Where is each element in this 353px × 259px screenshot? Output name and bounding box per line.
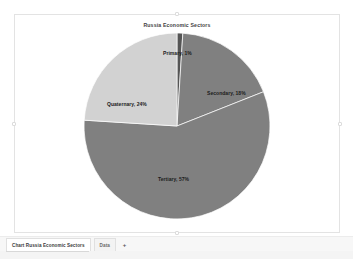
pie-data-label-quaternary[interactable]: Quaternary, 24%: [107, 101, 147, 107]
sheet-tab-chart[interactable]: Chart Russia Economic Sectors: [6, 238, 91, 251]
pie-chart-plot-area[interactable]: Primary, 1% Secondary, 18% Tertiary, 57%…: [15, 31, 339, 231]
add-sheet-button[interactable]: +: [119, 238, 130, 251]
pie-data-label-primary[interactable]: Primary, 1%: [163, 50, 192, 56]
chart-title[interactable]: Russia Economic Sectors: [15, 22, 339, 28]
chart-object-frame[interactable]: Russia Economic Sectors Primary, 1% Seco…: [14, 14, 340, 233]
resize-handle-top-middle[interactable]: [175, 12, 179, 16]
resize-handle-bottom-middle[interactable]: [175, 231, 179, 235]
pie-data-label-secondary[interactable]: Secondary, 18%: [207, 90, 246, 96]
sheet-tab-bar: Chart Russia Economic Sectors Data +: [0, 236, 353, 259]
pie-data-label-tertiary[interactable]: Tertiary, 57%: [158, 176, 189, 182]
sheet-bar-background: [0, 251, 353, 259]
sheet-tab-data[interactable]: Data: [94, 238, 116, 251]
sheet-tabs-container: Chart Russia Economic Sectors Data +: [6, 238, 130, 251]
spreadsheet-canvas: Russia Economic Sectors Primary, 1% Seco…: [0, 0, 353, 259]
active-tab-underline: [6, 251, 89, 252]
pie-slice-quaternary[interactable]: [84, 33, 177, 126]
pie-slice-group: [84, 33, 270, 219]
pie-chart-graphic[interactable]: [84, 31, 270, 221]
